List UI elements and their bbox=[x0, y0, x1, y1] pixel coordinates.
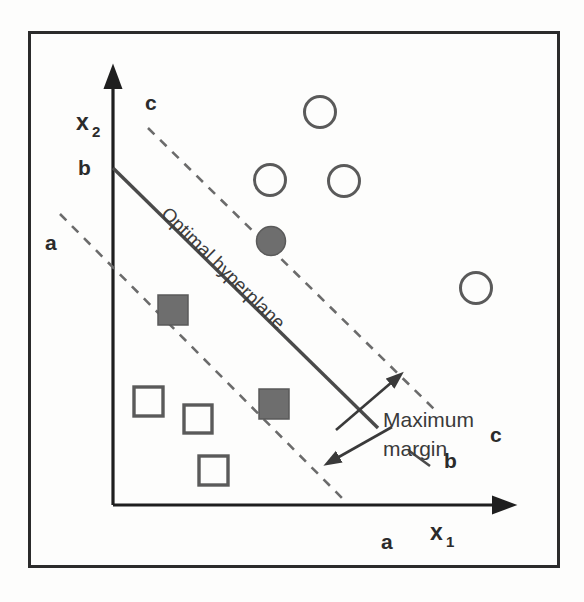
label-c-bottom: c bbox=[490, 423, 502, 446]
maximum-margin-label-line1: Maximum bbox=[383, 408, 474, 431]
label-b-top: b bbox=[78, 156, 91, 179]
margin-line-c bbox=[148, 128, 434, 409]
x-axis-label: x 1 bbox=[430, 519, 454, 550]
maximum-margin-label-line2: margin bbox=[383, 437, 447, 460]
data-point-square-open bbox=[184, 405, 212, 433]
data-point-square-open bbox=[199, 456, 228, 485]
support-vector-square-filled bbox=[158, 295, 188, 325]
circle-points-group bbox=[255, 97, 492, 304]
svm-diagram-canvas: x 2 x 1 c c b b a a Optimal hyperplane M… bbox=[0, 0, 584, 602]
y-axis-label-subscript: 2 bbox=[92, 123, 100, 140]
support-vector-circle-filled bbox=[257, 227, 286, 256]
data-point-circle-open bbox=[255, 165, 286, 196]
data-point-circle-open bbox=[305, 97, 336, 128]
square-points-group bbox=[134, 387, 228, 485]
x-axis-label-main: x bbox=[430, 519, 443, 545]
figure-border bbox=[30, 33, 559, 567]
support-vector-square-filled bbox=[259, 389, 289, 419]
y-axis-label: x 2 bbox=[76, 109, 100, 140]
data-point-square-open bbox=[134, 387, 163, 416]
label-a-bottom: a bbox=[381, 530, 393, 553]
data-point-circle-open bbox=[329, 166, 360, 197]
label-a-top: a bbox=[45, 231, 57, 254]
label-c-top: c bbox=[145, 91, 157, 114]
y-axis-label-main: x bbox=[76, 109, 89, 135]
svm-diagram-figure: x 2 x 1 c c b b a a Optimal hyperplane M… bbox=[0, 0, 584, 602]
data-point-circle-open bbox=[461, 273, 492, 304]
x-axis-label-subscript: 1 bbox=[446, 533, 454, 550]
